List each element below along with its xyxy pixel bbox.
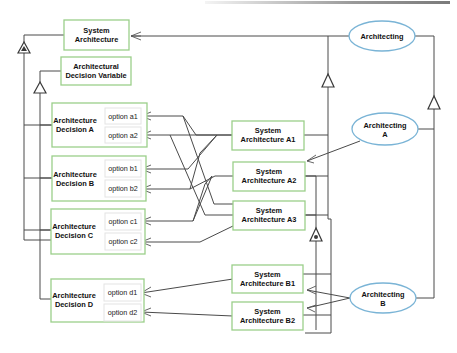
arrow-head-icon xyxy=(131,32,141,40)
option-b1[interactable]: option b1 xyxy=(105,160,141,177)
node-system-architecture-b1[interactable]: System Architecture B1 xyxy=(232,265,303,293)
node-architecture-decision-a[interactable]: Architecture Decision A option a1 option… xyxy=(52,103,147,147)
svg-text:Decision B: Decision B xyxy=(56,179,94,188)
option-d1[interactable]: option d1 xyxy=(104,284,141,301)
option-d2[interactable]: option d2 xyxy=(104,304,141,321)
svg-text:Architecting: Architecting xyxy=(363,121,407,130)
node-architecting-b[interactable]: Architecting B xyxy=(350,283,416,313)
architecture-diagram: System Architecture Architectural Decisi… xyxy=(0,0,457,353)
svg-text:Architecture A2: Architecture A2 xyxy=(242,176,297,185)
svg-text:Architecture A1: Architecture A1 xyxy=(241,135,296,144)
svg-text:A: A xyxy=(382,130,388,139)
svg-text:Architecting: Architecting xyxy=(360,32,404,41)
node-architecture-decision-b[interactable]: Architecture Decision B option b1 option… xyxy=(52,156,146,201)
svg-text:Architecting: Architecting xyxy=(361,290,405,299)
node-architecture-decision-c[interactable]: Architecture Decision C option c1 option… xyxy=(51,209,145,254)
node-architecture-decision-d[interactable]: Architecture Decision D option d1 option… xyxy=(51,279,144,322)
option-c2[interactable]: option c2 xyxy=(105,233,141,250)
svg-text:Decision Variable: Decision Variable xyxy=(65,71,126,80)
option-a2[interactable]: option a2 xyxy=(105,127,141,143)
node-system-architecture-b2[interactable]: System Architecture B2 xyxy=(232,302,303,330)
svg-text:option b2: option b2 xyxy=(108,184,138,193)
svg-text:Architectural: Architectural xyxy=(73,62,119,71)
svg-text:option b1: option b1 xyxy=(108,164,138,173)
svg-text:Architecture: Architecture xyxy=(53,116,97,125)
option-b2[interactable]: option b2 xyxy=(105,180,141,197)
svg-text:Architecture B2: Architecture B2 xyxy=(240,316,295,325)
svg-text:option d1: option d1 xyxy=(108,288,138,297)
node-system-architecture[interactable]: System Architecture xyxy=(64,20,129,50)
svg-text:Architecture B1: Architecture B1 xyxy=(240,279,295,288)
svg-text:Architecture: Architecture xyxy=(52,222,96,231)
svg-text:option d2: option d2 xyxy=(108,308,138,317)
svg-text:option a1: option a1 xyxy=(108,112,138,121)
svg-text:System: System xyxy=(256,167,283,176)
generalization-triangle-icon xyxy=(34,82,46,93)
option-c1[interactable]: option c1 xyxy=(105,213,141,230)
svg-text:Architecture A3: Architecture A3 xyxy=(242,215,297,224)
svg-text:System: System xyxy=(254,270,281,279)
aggregation-triangle-icon xyxy=(310,228,322,241)
svg-text:Decision A: Decision A xyxy=(56,125,95,134)
node-architecting-a[interactable]: Architecting A xyxy=(352,113,418,145)
svg-text:System: System xyxy=(256,206,283,215)
svg-text:option c1: option c1 xyxy=(108,217,137,226)
svg-text:Decision D: Decision D xyxy=(55,300,94,309)
option-a1[interactable]: option a1 xyxy=(105,108,141,124)
svg-text:option a2: option a2 xyxy=(108,131,138,140)
node-architectural-decision-variable[interactable]: Architectural Decision Variable xyxy=(61,57,131,85)
svg-text:Architecture: Architecture xyxy=(53,170,97,179)
svg-text:System: System xyxy=(83,26,110,35)
svg-text:System: System xyxy=(254,307,281,316)
generalization-triangle-icon xyxy=(322,74,334,87)
node-architecting[interactable]: Architecting xyxy=(349,21,415,51)
svg-text:option c2: option c2 xyxy=(108,237,137,246)
svg-text:Decision C: Decision C xyxy=(55,231,94,240)
svg-text:Architecture: Architecture xyxy=(52,291,96,300)
node-system-architecture-a3[interactable]: System Architecture A3 xyxy=(233,201,305,230)
svg-text:Architecture: Architecture xyxy=(75,35,119,44)
svg-text:System: System xyxy=(255,126,282,135)
svg-text:B: B xyxy=(380,299,385,308)
generalization-triangle-icon xyxy=(428,96,440,109)
node-system-architecture-a1[interactable]: System Architecture A1 xyxy=(232,121,304,150)
node-system-architecture-a2[interactable]: System Architecture A2 xyxy=(233,162,305,191)
